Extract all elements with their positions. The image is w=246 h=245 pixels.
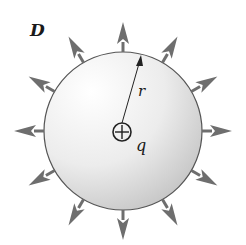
field-arrow-shaft <box>191 87 200 92</box>
positive-charge-icon <box>113 123 131 141</box>
field-arrow-shaft <box>46 87 55 92</box>
charge-label: q <box>136 136 146 155</box>
field-arrow-shaft <box>163 54 168 63</box>
field-arrowhead-icon <box>14 125 36 137</box>
field-arrow-shaft <box>191 171 200 176</box>
field-arrowhead-icon <box>29 77 51 93</box>
field-arrowhead-icon <box>69 37 85 59</box>
gauss-sphere-diagram: D r q <box>0 0 246 245</box>
field-arrow-shaft <box>163 199 168 208</box>
field-arrow-shaft <box>46 171 55 176</box>
field-arrowhead-icon <box>195 169 217 185</box>
field-arrowhead-icon <box>117 22 129 44</box>
field-label-d: D <box>30 20 45 40</box>
field-arrowhead-icon <box>69 203 85 225</box>
field-arrow-shaft <box>79 54 84 63</box>
radius-label: r <box>138 82 145 100</box>
field-arrowhead-icon <box>117 218 129 240</box>
gaussian-sphere <box>44 52 202 210</box>
field-arrowhead-icon <box>195 77 217 93</box>
field-arrowhead-icon <box>29 169 51 185</box>
field-arrow-shaft <box>79 199 84 208</box>
field-arrowhead-icon <box>161 203 177 225</box>
field-arrowhead-icon <box>161 37 177 59</box>
field-arrowhead-icon <box>210 125 232 137</box>
